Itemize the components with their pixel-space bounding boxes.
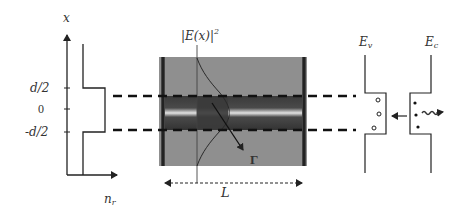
- tick-label-zero: 0: [38, 102, 44, 116]
- valence-band-label: Ev: [358, 35, 373, 50]
- left-mirror: [161, 57, 165, 166]
- laser-waveguide-diagram: x d/2 0 -d/2 nr Γ |E(x)|2 L: [0, 0, 468, 210]
- electron-icon: [416, 125, 419, 128]
- photon-wave-icon: [422, 112, 438, 115]
- hole-icon: [372, 126, 376, 130]
- photon-arrow: [436, 112, 443, 113]
- axis-nr-label: nr: [104, 192, 117, 207]
- band-diagram-panel: Ev Ec: [358, 35, 443, 173]
- index-profile-panel: x d/2 0 -d/2 nr: [25, 11, 117, 207]
- electron-icon: [414, 113, 417, 116]
- valence-band-edge: [365, 55, 386, 173]
- active-core-band: [162, 96, 306, 130]
- cavity-length-label: L: [220, 185, 230, 200]
- right-mirror: [302, 57, 306, 166]
- hole-icon: [377, 112, 381, 116]
- conduction-band-label: Ec: [424, 35, 439, 50]
- tick-label-minus-d-half: -d/2: [25, 125, 48, 139]
- gain-section-overlay: [197, 96, 228, 130]
- electron-icon: [413, 101, 416, 104]
- field-intensity-label: |E(x)|2: [181, 27, 219, 43]
- hole-icon: [376, 98, 380, 102]
- axis-x-label: x: [63, 11, 70, 25]
- confinement-factor-label: Γ: [250, 152, 258, 167]
- index-step-profile: [83, 44, 105, 175]
- waveguide-panel: Γ |E(x)|2 L: [159, 27, 307, 200]
- tick-label-d-half: d/2: [30, 81, 49, 95]
